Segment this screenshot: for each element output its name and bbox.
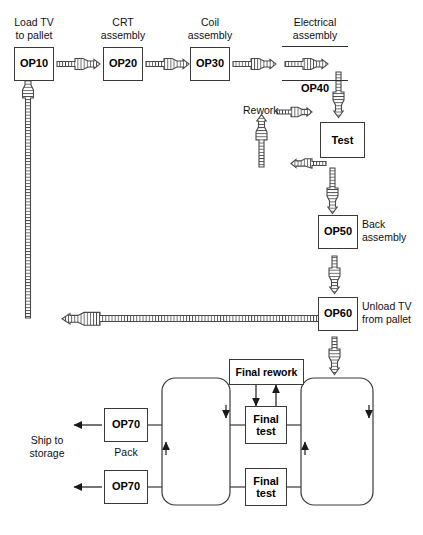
diagram-canvas: Load TV to pallet CRT assembly Coil asse… (0, 0, 423, 535)
station-box-op20[interactable]: OP20 (103, 47, 143, 81)
op20-caption: CRT assembly (95, 16, 151, 41)
pack-label: Pack (104, 446, 148, 459)
test-box[interactable]: Test (320, 122, 365, 158)
station-box-op50[interactable]: OP50 (318, 215, 358, 249)
station-box-op60[interactable]: OP60 (318, 297, 358, 331)
final-test-box-lower[interactable]: Final test (245, 468, 287, 506)
station-label-op40: OP40 (282, 82, 348, 94)
final-rework-box[interactable]: Final rework (229, 359, 304, 385)
op30-caption: Coil assembly (182, 16, 238, 41)
ship-to-storage-label: Ship to storage (16, 434, 78, 459)
station-box-op10[interactable]: OP10 (14, 47, 54, 81)
op40-caption: Electrical assembly (275, 16, 355, 41)
op60-caption: Unload TV from pallet (362, 300, 423, 325)
op10-caption: Load TV to pallet (6, 16, 62, 41)
station-box-op70-lower[interactable]: OP70 (104, 470, 148, 504)
station-box-op30[interactable]: OP30 (190, 47, 230, 81)
op50-caption: Back assembly (362, 218, 422, 243)
rework-label: Rework (243, 104, 279, 117)
station-box-op70-upper[interactable]: OP70 (104, 408, 148, 442)
final-test-box-upper[interactable]: Final test (245, 406, 287, 444)
